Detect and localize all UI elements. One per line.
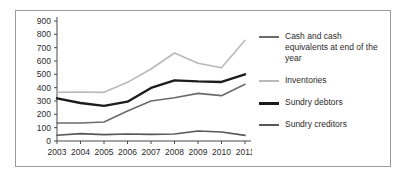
x-tick-label: 2008 <box>165 147 184 157</box>
legend-label-cash: Cash and cash equivalents at end of the … <box>285 31 387 64</box>
plot-area: 0100200300400500600700800900 20032004200… <box>16 11 252 166</box>
legend-item-sundry-creditors[interactable]: Sundry creditors <box>259 119 387 130</box>
legend-swatch-inventories <box>259 80 279 82</box>
legend-label-inventories: Inventories <box>285 75 327 86</box>
x-tick-label: 2005 <box>95 147 114 157</box>
series-line-sundry-creditors <box>57 131 245 135</box>
y-tick-label: 100 <box>37 123 51 133</box>
chart-figure: 0100200300400500600700800900 20032004200… <box>15 10 391 167</box>
x-tick-label: 2007 <box>142 147 161 157</box>
legend-swatch-cash <box>259 36 279 38</box>
y-tick-label: 800 <box>37 29 51 39</box>
chart-legend: Cash and cash equivalents at end of the … <box>259 31 387 141</box>
series-lines <box>57 40 245 135</box>
y-tick-label: 0 <box>46 136 51 146</box>
y-tick-label: 900 <box>37 16 51 26</box>
x-tick-label: 2003 <box>48 147 67 157</box>
legend-label-sundry-creditors: Sundry creditors <box>285 119 347 130</box>
y-tick-label: 400 <box>37 83 51 93</box>
x-tick-label: 2009 <box>189 147 208 157</box>
legend-swatch-sundry-debtors <box>259 102 279 105</box>
legend-item-sundry-debtors[interactable]: Sundry debtors <box>259 97 387 108</box>
y-tick-label: 500 <box>37 69 51 79</box>
x-tick-label: 2011 <box>236 147 252 157</box>
y-tick-label: 600 <box>37 56 51 66</box>
legend-item-cash[interactable]: Cash and cash equivalents at end of the … <box>259 31 387 64</box>
y-tick-label: 700 <box>37 43 51 53</box>
legend-label-sundry-debtors: Sundry debtors <box>285 97 343 108</box>
x-tick-label: 2004 <box>71 147 90 157</box>
x-axis: 200320042005200620072008200920102011 <box>48 141 252 157</box>
legend-item-inventories[interactable]: Inventories <box>259 75 387 86</box>
x-tick-label: 2006 <box>118 147 137 157</box>
y-axis: 0100200300400500600700800900 <box>37 16 57 146</box>
x-tick-label: 2010 <box>212 147 231 157</box>
y-tick-label: 300 <box>37 96 51 106</box>
line-chart-svg: 0100200300400500600700800900 20032004200… <box>16 11 252 166</box>
series-line-inventories <box>57 40 245 92</box>
legend-swatch-sundry-creditors <box>259 124 279 126</box>
y-tick-label: 200 <box>37 109 51 119</box>
